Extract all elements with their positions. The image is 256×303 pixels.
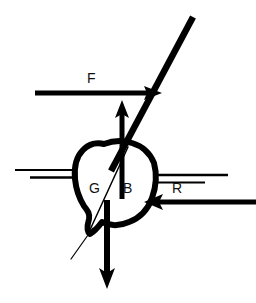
label-force-F: F [87,71,96,85]
force-diagram [0,0,256,303]
diagram-canvas: F G B R [0,0,256,303]
label-reaction-R: R [172,181,182,195]
reaction-arrow-R [144,194,256,210]
label-centre-of-gravity-G: G [89,181,100,195]
label-centre-of-buoyancy-B: B [123,181,132,195]
force-arrow-F [35,86,162,100]
keel-extension-line [71,228,93,259]
hull-cross-section [75,141,156,234]
